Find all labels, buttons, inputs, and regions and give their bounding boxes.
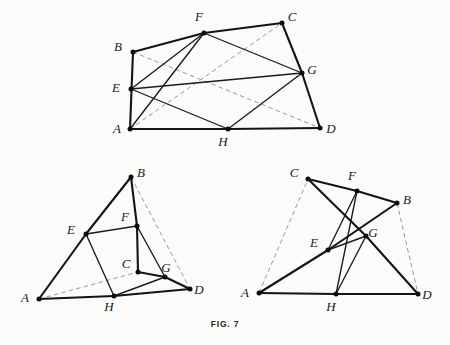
- vertex-label-F: F: [120, 209, 130, 224]
- geometry-figure-svg: ABCDEFGHABCDEFGHABCDEFGH FIG. 7: [0, 0, 450, 345]
- segment-AC-dashed: [130, 23, 282, 129]
- crossed-quadrilateral-left: ABCDEFGH: [20, 165, 204, 314]
- crossed-quadrilateral-right: ABCDEFGH: [240, 165, 432, 314]
- segment-FC: [137, 226, 138, 272]
- vertex-label-A: A: [240, 285, 249, 300]
- segment-BF: [133, 33, 204, 52]
- segment-AE: [39, 234, 86, 299]
- vertex-dot-B: [129, 175, 134, 180]
- segment-HD: [228, 128, 320, 129]
- segment-CG: [308, 179, 366, 236]
- vertex-label-G: G: [307, 62, 317, 77]
- vertex-label-F: F: [194, 9, 204, 24]
- vertex-dot-A: [257, 291, 262, 296]
- segment-AH: [259, 293, 336, 294]
- vertex-dot-B: [131, 50, 136, 55]
- segment-BD-dashed: [133, 52, 320, 128]
- vertex-dot-C: [280, 21, 285, 26]
- vertex-dot-D: [188, 287, 193, 292]
- vertex-label-E: E: [111, 80, 120, 95]
- vertex-label-A: A: [20, 290, 29, 305]
- vertex-label-E: E: [309, 235, 318, 250]
- vertex-label-D: D: [193, 282, 204, 297]
- vertex-label-C: C: [122, 256, 131, 271]
- segment-GH: [228, 73, 302, 129]
- vertex-label-C: C: [288, 9, 297, 24]
- convex-quadrilateral-with-varignon-parallelogram: ABCDEFGH: [111, 9, 336, 149]
- vertex-dot-F: [202, 31, 207, 36]
- vertex-label-H: H: [325, 299, 336, 314]
- vertex-dot-E: [326, 248, 331, 253]
- segment-HD: [114, 289, 190, 296]
- figure-caption: FIG. 7: [211, 319, 239, 329]
- segment-AE: [259, 250, 328, 293]
- vertex-label-D: D: [421, 287, 432, 302]
- figure-group: ABCDEFGHABCDEFGHABCDEFGH: [20, 9, 432, 314]
- segment-BD-dashed: [397, 203, 418, 294]
- vertex-dot-H: [334, 292, 339, 297]
- vertex-dot-G: [163, 275, 168, 280]
- vertex-dot-C: [306, 177, 311, 182]
- figure-page: ABCDEFGHABCDEFGHABCDEFGH FIG. 7: [0, 0, 450, 345]
- segment-AC-dashed: [259, 179, 308, 293]
- vertex-dot-E: [129, 87, 134, 92]
- vertex-dot-D: [318, 126, 323, 131]
- vertex-label-F: F: [347, 168, 357, 183]
- vertex-dot-F: [355, 189, 360, 194]
- vertex-dot-F: [135, 224, 140, 229]
- segment-EG: [131, 73, 302, 89]
- vertex-dot-A: [37, 297, 42, 302]
- vertex-dot-E: [84, 232, 89, 237]
- segment-GD: [165, 277, 190, 289]
- vertex-dot-H: [226, 127, 231, 132]
- segment-HE: [86, 234, 114, 296]
- vertex-label-H: H: [103, 299, 114, 314]
- vertex-label-C: C: [290, 165, 299, 180]
- segment-GD: [302, 73, 320, 128]
- vertex-dot-H: [112, 294, 117, 299]
- vertex-label-A: A: [112, 121, 121, 136]
- vertex-label-H: H: [217, 134, 228, 149]
- vertex-label-G: G: [368, 225, 378, 240]
- segment-EB: [86, 177, 131, 234]
- vertex-label-D: D: [325, 121, 336, 136]
- vertex-label-E: E: [66, 222, 75, 237]
- vertex-dot-D: [416, 292, 421, 297]
- vertex-dot-B: [395, 201, 400, 206]
- segment-FB: [357, 191, 397, 203]
- vertex-label-B: B: [137, 165, 145, 180]
- segment-BF: [131, 177, 137, 226]
- vertex-dot-C: [136, 270, 141, 275]
- segment-GD: [366, 236, 418, 294]
- vertex-label-B: B: [114, 39, 122, 54]
- vertex-dot-A: [128, 127, 133, 132]
- segment-AH: [39, 296, 114, 299]
- vertex-dot-G: [300, 71, 305, 76]
- vertex-label-B: B: [403, 192, 411, 207]
- vertex-label-G: G: [161, 260, 171, 275]
- segment-EF: [86, 226, 137, 234]
